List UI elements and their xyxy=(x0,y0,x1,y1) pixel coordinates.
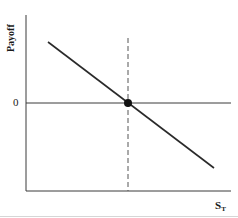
payoff-chart xyxy=(0,0,238,218)
x-axis-label: ST xyxy=(215,199,226,213)
bottom-divider xyxy=(0,216,238,217)
y-tick-zero: 0 xyxy=(13,96,19,108)
x-axis-label-sub: T xyxy=(221,205,226,213)
y-axis-label: Payoff xyxy=(5,24,16,52)
strike-point-dot xyxy=(124,99,132,107)
